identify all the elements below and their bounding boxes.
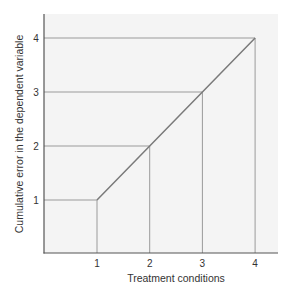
y-tick-labels: 1234 [33,33,39,206]
y-tick-label: 3 [33,87,39,98]
y-axis-title: Cumulative error in the dependent variab… [13,35,25,234]
x-axis-title: Treatment conditions [127,272,225,284]
y-tick-label: 2 [33,141,39,152]
x-tick-label: 2 [147,258,153,269]
x-tick-label: 1 [94,258,100,269]
x-tick-label: 3 [200,258,206,269]
y-tick-label: 4 [33,33,39,44]
x-tick-label: 4 [252,258,258,269]
y-tick-label: 1 [33,195,39,206]
chart: 1234 1234 Treatment conditions Cumulativ… [0,0,290,295]
x-tick-labels: 1234 [94,258,258,269]
